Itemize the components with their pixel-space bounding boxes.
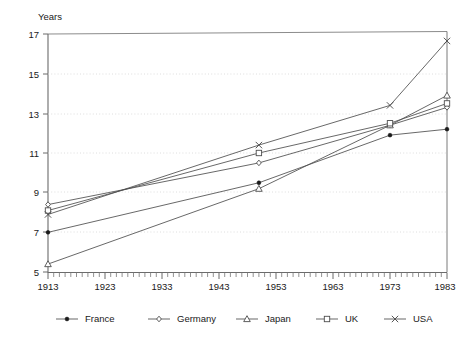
legend-item-japan[interactable]: Japan <box>236 313 291 324</box>
legend-item-usa[interactable]: USA <box>384 313 433 324</box>
y-tick-label: 9 <box>34 187 39 198</box>
x-tick-label: 1943 <box>208 281 229 292</box>
series-line <box>48 129 447 232</box>
legend-item-uk[interactable]: UK <box>316 313 359 324</box>
chart-container: Years 17 15 13 11 9 7 5 1913 1923 1933 <box>0 0 469 340</box>
gridlines-horizontal <box>48 74 447 232</box>
data-point <box>46 230 50 234</box>
y-tick-label: 13 <box>28 109 39 120</box>
plot-frame <box>48 32 447 274</box>
data-point <box>256 150 261 155</box>
data-point <box>445 127 449 131</box>
legend-label: Germany <box>177 313 216 324</box>
legend-label: UK <box>345 313 359 324</box>
x-tick-label: 1923 <box>94 281 115 292</box>
legend-label: France <box>85 313 115 324</box>
data-point <box>444 101 449 106</box>
line-chart: Years 17 15 13 11 9 7 5 1913 1923 1933 <box>0 0 469 340</box>
y-tick-label: 5 <box>34 267 39 278</box>
data-point <box>46 202 51 208</box>
y-tick-label: 7 <box>34 227 39 238</box>
data-point <box>257 181 261 185</box>
series-uk <box>45 101 449 213</box>
square-marker <box>324 316 329 321</box>
legend-item-france[interactable]: France <box>56 313 115 324</box>
chart-legend: FranceGermanyJapanUKUSA <box>56 313 433 324</box>
data-point <box>387 102 393 108</box>
y-axis-title: Years <box>38 11 62 22</box>
data-point <box>444 92 451 98</box>
data-series-group <box>45 38 451 267</box>
filled-circle-marker <box>65 317 69 321</box>
y-axis-ticks <box>43 34 48 272</box>
x-tick-label: 1953 <box>265 281 286 292</box>
y-tick-label: 17 <box>28 29 39 40</box>
x-tick-label: 1973 <box>379 281 400 292</box>
data-point <box>256 185 263 191</box>
data-point <box>388 133 392 137</box>
data-point <box>387 121 392 126</box>
legend-label: USA <box>413 313 433 324</box>
legend-item-germany[interactable]: Germany <box>148 313 216 324</box>
y-tick-label: 11 <box>29 148 39 159</box>
x-tick-label: 1913 <box>37 281 58 292</box>
data-point <box>45 261 52 267</box>
x-axis-tick-labels: 1913 1923 1933 1943 1953 1963 1973 1983 <box>37 281 455 292</box>
legend-label: Japan <box>265 313 291 324</box>
y-axis-tick-labels: 17 15 13 11 9 7 5 <box>28 29 39 278</box>
x-tick-label: 1963 <box>322 281 343 292</box>
y-tick-label: 15 <box>28 69 39 80</box>
series-japan <box>45 92 451 266</box>
x-tick-label: 1983 <box>434 281 455 292</box>
diamond-marker <box>157 316 162 322</box>
x-axis-minor-ticks <box>54 273 442 278</box>
data-point <box>256 142 262 148</box>
x-tick-label: 1933 <box>151 281 172 292</box>
series-france <box>46 127 449 234</box>
data-point <box>257 160 262 166</box>
